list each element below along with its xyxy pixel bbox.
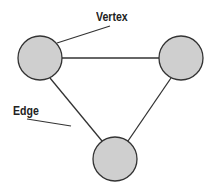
graph-canvas — [0, 0, 214, 192]
vertex-v1 — [18, 36, 62, 80]
vertex-label: Vertex — [96, 10, 128, 24]
vertex-callout-line — [57, 26, 110, 43]
edge-v2-v3 — [128, 78, 171, 141]
edge-callout-line — [27, 119, 71, 126]
graph-diagram: Vertex Edge — [0, 0, 214, 192]
vertex-v3 — [93, 137, 137, 181]
edge-label: Edge — [13, 104, 39, 118]
vertex-v2 — [159, 36, 203, 80]
edge-v1-v3 — [50, 78, 102, 141]
